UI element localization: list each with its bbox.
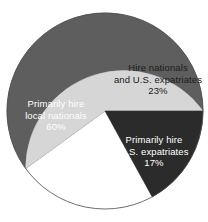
pie-chart-graphic (0, 0, 208, 222)
pie-chart: Primarily hire local nationals 60% Hire … (0, 0, 208, 222)
pie-slice-primarily-hire-us-expatriates (105, 111, 203, 197)
